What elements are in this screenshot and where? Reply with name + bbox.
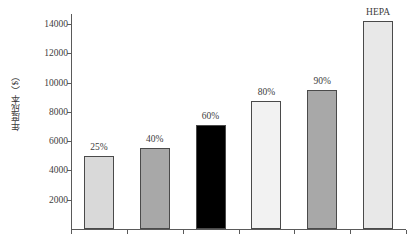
- bar: [363, 21, 393, 229]
- bar-value-label: 40%: [146, 134, 163, 144]
- x-axis-tick: [71, 230, 72, 234]
- y-axis-tick-label: 2000: [24, 195, 68, 205]
- y-axis-tick: [67, 200, 72, 201]
- y-axis-tick: [67, 112, 72, 113]
- y-axis-tick-label: 10000: [24, 78, 68, 88]
- y-axis-tick: [67, 141, 72, 142]
- bar-value-label: 90%: [314, 76, 331, 86]
- bar-value-label: 80%: [258, 87, 275, 97]
- bar-chart: 年度成本（$） 2000400060008000100001200014000 …: [0, 0, 412, 250]
- x-axis-tick: [406, 230, 407, 234]
- bar: [307, 90, 337, 229]
- y-axis-tick-label: 14000: [24, 19, 68, 29]
- y-axis-tick: [67, 53, 72, 54]
- y-axis-tick-label: 6000: [24, 136, 68, 146]
- y-axis-tick-label: 12000: [24, 48, 68, 58]
- plot-area: 25%40%60%80%90%HEPA: [71, 0, 406, 250]
- y-axis-tick: [67, 170, 72, 171]
- x-axis-tick: [127, 230, 128, 234]
- bar: [84, 156, 114, 229]
- bar-value-label: 60%: [202, 111, 219, 121]
- bar: [140, 148, 170, 229]
- bar-value-label: 25%: [90, 142, 107, 152]
- y-axis-tick-label: 8000: [24, 107, 68, 117]
- x-axis-tick: [239, 230, 240, 234]
- bar-value-label: HEPA: [366, 7, 390, 17]
- bar: [251, 101, 281, 229]
- y-axis-tick: [67, 83, 72, 84]
- y-axis-tick-labels: 2000400060008000100001200014000: [24, 0, 68, 250]
- bar: [196, 125, 226, 229]
- x-axis-tick: [183, 230, 184, 234]
- x-axis-tick: [294, 230, 295, 234]
- y-axis-tick-label: 4000: [24, 165, 68, 175]
- y-axis-tick: [67, 24, 72, 25]
- x-axis-tick: [350, 230, 351, 234]
